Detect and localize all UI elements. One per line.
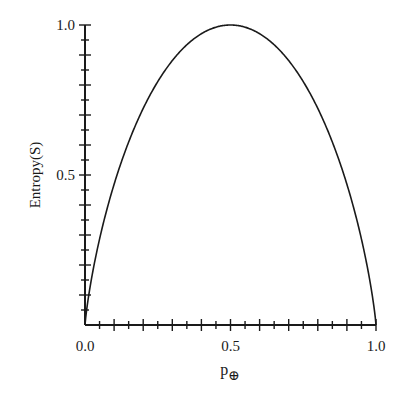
x-tick-label: 0.5 (221, 338, 240, 354)
chart-canvas: 0.00.51.00.51.0 Entropy(S) p⊕ (0, 0, 400, 407)
entropy-curve (85, 25, 376, 325)
y-tick-label: 1.0 (56, 17, 75, 33)
x-tick-label: 0.0 (76, 338, 95, 354)
x-axis-label: p⊕ (220, 361, 240, 383)
tick-labels: 0.00.51.00.51.0 (56, 17, 385, 354)
ticks (79, 25, 376, 331)
y-tick-label: 0.5 (56, 167, 75, 183)
x-axis-label-subscript: ⊕ (228, 368, 240, 383)
x-tick-label: 1.0 (367, 338, 386, 354)
entropy-chart: 0.00.51.00.51.0 Entropy(S) p⊕ (0, 0, 400, 407)
axes (85, 25, 376, 325)
y-axis-label: Entropy(S) (27, 142, 44, 209)
x-axis-label-main: p (220, 361, 228, 379)
